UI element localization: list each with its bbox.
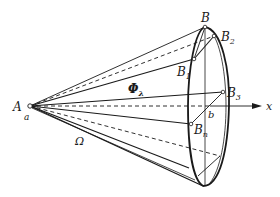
x-axis-arrowhead	[252, 103, 262, 109]
label-B3: B3	[226, 86, 241, 102]
point-B3-marker	[221, 90, 225, 94]
chord-lower	[198, 156, 220, 176]
label-omega: Ω	[74, 135, 84, 148]
label-Bn: Bn	[193, 123, 208, 139]
label-B1: B1	[176, 65, 191, 81]
point-B-marker	[203, 25, 207, 29]
label-a: a	[24, 112, 29, 122]
label-x: x	[266, 100, 273, 113]
label-B: B	[200, 11, 210, 25]
label-B2: B2	[220, 30, 235, 46]
point-Bn-marker	[189, 122, 193, 126]
base-ellipse-back-edge	[203, 27, 229, 186]
generator-A-bottom-inner	[32, 108, 195, 180]
point-B1-marker	[192, 57, 196, 61]
generator-A-bottom-outer	[30, 106, 203, 186]
hidden-generator-A-B2	[30, 36, 214, 106]
cone-diagram: A a B B2 B1 B3 Bn b x Φλ Ω	[0, 0, 280, 197]
point-A-marker	[28, 104, 32, 108]
diagram-canvas: A a B B2 B1 B3 Bn b x Φλ Ω	[0, 0, 280, 197]
chord-B3-Bn	[191, 92, 223, 124]
generator-A-B3	[30, 92, 223, 106]
hidden-generator-A-lower-back	[30, 106, 220, 156]
label-A: A	[12, 100, 22, 114]
label-b: b	[208, 109, 214, 120]
point-B2-marker	[212, 34, 216, 38]
generator-A-B1	[30, 59, 194, 106]
label-phi-lambda: Φλ	[128, 82, 144, 98]
